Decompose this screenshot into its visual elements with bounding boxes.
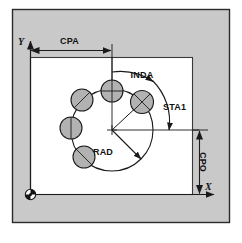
workpiece-plate (31, 58, 193, 195)
rad-label: RAD (93, 147, 113, 157)
hole-2 (101, 80, 123, 102)
y-axis-label: Y (18, 36, 25, 47)
hole-3 (71, 89, 93, 111)
hole-4 (60, 117, 82, 139)
figure-container: Y X CPA CPO RAD STA1 (0, 0, 242, 243)
origin-marker (25, 189, 35, 199)
hole-1 (131, 91, 154, 114)
cpo-label: CPO (198, 152, 208, 172)
bolt-circle-diagram: Y X CPA CPO RAD STA1 (0, 0, 242, 243)
sta1-label: STA1 (163, 102, 186, 112)
hole-5 (73, 146, 95, 168)
cpa-label: CPA (60, 36, 79, 46)
inda-label: INDA (131, 70, 154, 80)
x-axis-label: X (204, 181, 212, 192)
